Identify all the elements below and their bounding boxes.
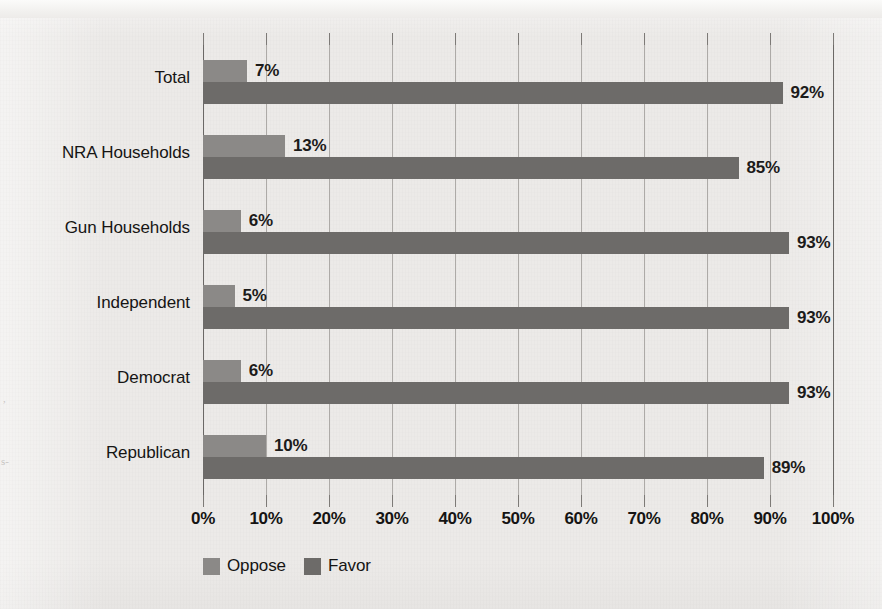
gridline-60: [581, 45, 582, 495]
gridline-90: [770, 45, 771, 495]
xtick-label-80: 80%: [677, 509, 737, 529]
tick-top-70: [644, 33, 645, 45]
xtick-label-50: 50%: [488, 509, 548, 529]
tick-bottom-20: [329, 495, 330, 507]
tick-top-20: [329, 33, 330, 45]
category-label-democrat: Democrat: [117, 368, 190, 388]
bar-total-favor[interactable]: [203, 82, 783, 104]
bar-value-total-favor: 92%: [791, 82, 824, 104]
xtick-label-30: 30%: [362, 509, 422, 529]
grouped-bar-chart: Total NRA Households Gun Households Inde…: [0, 0, 882, 609]
gridline-80: [707, 45, 708, 495]
bar-democrat-favor[interactable]: [203, 382, 789, 404]
xtick-label-100: 100%: [801, 509, 865, 529]
tick-bottom-100: [833, 495, 834, 507]
category-label-gun-households: Gun Households: [65, 218, 190, 238]
legend-item-favor[interactable]: Favor: [304, 556, 371, 576]
bar-value-nra-households-favor: 85%: [747, 157, 780, 179]
xtick-label-10: 10%: [236, 509, 296, 529]
plot-area: 7% 92% 13% 85% 6% 93% 5%: [203, 45, 833, 495]
bar-independent-favor[interactable]: [203, 307, 789, 329]
tick-bottom-80: [707, 495, 708, 507]
tick-bottom-70: [644, 495, 645, 507]
tick-bottom-50: [518, 495, 519, 507]
tick-top-30: [392, 33, 393, 45]
bar-gun-households-favor[interactable]: [203, 232, 789, 254]
bar-value-independent-oppose: 5%: [243, 285, 267, 307]
legend-label-favor: Favor: [328, 556, 371, 576]
tick-bottom-90: [770, 495, 771, 507]
tick-top-90: [770, 33, 771, 45]
bar-total-oppose[interactable]: [203, 60, 247, 82]
bar-republican-oppose[interactable]: [203, 435, 266, 457]
category-label-nra-households: NRA Households: [62, 143, 190, 163]
tick-top-40: [455, 33, 456, 45]
tick-top-100: [833, 33, 834, 45]
tick-top-0: [203, 33, 204, 45]
bar-value-independent-favor: 93%: [797, 307, 830, 329]
tick-top-60: [581, 33, 582, 45]
tick-top-10: [266, 33, 267, 45]
xtick-label-0: 0%: [173, 509, 233, 529]
category-label-republican: Republican: [106, 443, 190, 463]
gridline-70: [644, 45, 645, 495]
bar-republican-favor[interactable]: [203, 457, 764, 479]
category-label-total: Total: [155, 68, 190, 88]
bar-value-republican-oppose: 10%: [274, 435, 307, 457]
xtick-label-20: 20%: [299, 509, 359, 529]
chart-legend: Oppose Favor: [203, 556, 371, 576]
bar-independent-oppose[interactable]: [203, 285, 235, 307]
tick-bottom-60: [581, 495, 582, 507]
axis-line-left: [203, 45, 204, 495]
bar-value-democrat-oppose: 6%: [249, 360, 273, 382]
legend-swatch-favor-icon: [304, 558, 321, 575]
bar-value-total-oppose: 7%: [255, 60, 279, 82]
xtick-label-40: 40%: [425, 509, 485, 529]
axis-line-right: [833, 45, 834, 495]
tick-top-80: [707, 33, 708, 45]
gridline-40: [455, 45, 456, 495]
legend-item-oppose[interactable]: Oppose: [203, 556, 286, 576]
gridline-20: [329, 45, 330, 495]
xtick-label-70: 70%: [614, 509, 674, 529]
bar-nra-households-oppose[interactable]: [203, 135, 285, 157]
tick-bottom-40: [455, 495, 456, 507]
bar-value-gun-households-favor: 93%: [797, 232, 830, 254]
tick-bottom-30: [392, 495, 393, 507]
bar-democrat-oppose[interactable]: [203, 360, 241, 382]
category-label-independent: Independent: [97, 293, 190, 313]
scanned-page: , s- Total NRA Households Gun Households…: [0, 0, 882, 609]
bar-value-democrat-favor: 93%: [797, 382, 830, 404]
legend-swatch-oppose-icon: [203, 558, 220, 575]
bar-value-nra-households-oppose: 13%: [293, 135, 326, 157]
gridline-30: [392, 45, 393, 495]
bar-nra-households-favor[interactable]: [203, 157, 739, 179]
tick-bottom-0: [203, 495, 204, 507]
xtick-label-90: 90%: [740, 509, 800, 529]
xtick-label-60: 60%: [551, 509, 611, 529]
bar-value-gun-households-oppose: 6%: [249, 210, 273, 232]
gridline-50: [518, 45, 519, 495]
gridline-10: [266, 45, 267, 495]
bar-gun-households-oppose[interactable]: [203, 210, 241, 232]
tick-bottom-10: [266, 495, 267, 507]
tick-top-50: [518, 33, 519, 45]
bar-value-republican-favor: 89%: [772, 457, 805, 479]
legend-label-oppose: Oppose: [227, 556, 286, 576]
